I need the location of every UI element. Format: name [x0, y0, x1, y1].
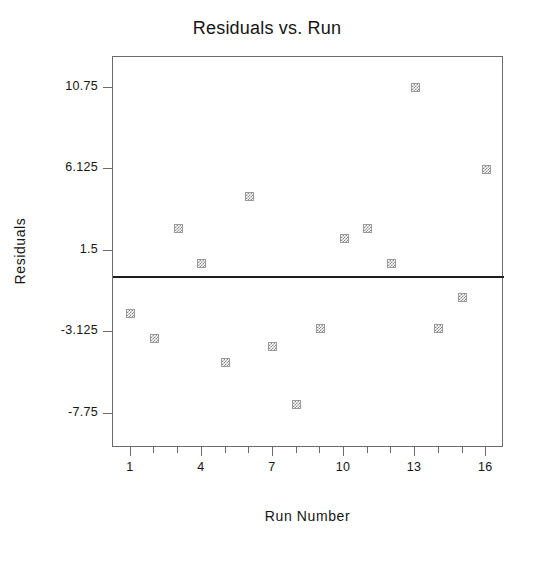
y-tick-label: -3.125: [61, 323, 98, 337]
zero-reference-line: [113, 276, 504, 278]
y-axis-title: Residuals: [12, 171, 28, 331]
x-tick-mark: [343, 447, 344, 456]
x-tick-label: 10: [323, 460, 363, 474]
data-point: [150, 334, 159, 343]
x-tick-mark: [201, 447, 202, 456]
data-point: [482, 165, 491, 174]
x-tick-mark-minor: [296, 447, 297, 453]
x-tick-label: 4: [181, 460, 221, 474]
x-tick-label: 7: [252, 460, 292, 474]
x-tick-label: 16: [465, 460, 505, 474]
x-tick-mark-minor: [438, 447, 439, 453]
y-tick-mark: [103, 87, 112, 88]
x-tick-mark-minor: [367, 447, 368, 453]
data-point: [411, 83, 420, 92]
data-point: [363, 224, 372, 233]
data-point: [387, 259, 396, 268]
x-tick-mark-minor: [462, 447, 463, 453]
x-tick-mark: [130, 447, 131, 456]
x-tick-label: 13: [394, 460, 434, 474]
x-tick-label: 1: [110, 460, 150, 474]
x-tick-mark: [485, 447, 486, 456]
x-tick-mark-minor: [225, 447, 226, 453]
x-tick-mark-minor: [177, 447, 178, 453]
residuals-vs-run-chart: Residuals vs. Run 10.756.1251.5-3.125-7.…: [0, 0, 534, 574]
y-tick-mark: [103, 413, 112, 414]
x-tick-mark-minor: [390, 447, 391, 453]
y-tick-mark: [103, 331, 112, 332]
x-axis-title: Run Number: [112, 508, 503, 524]
data-point: [221, 358, 230, 367]
x-tick-mark-minor: [319, 447, 320, 453]
data-point: [316, 324, 325, 333]
data-point: [458, 293, 467, 302]
y-tick-mark: [103, 250, 112, 251]
x-tick-mark: [272, 447, 273, 456]
y-tick-label: 6.125: [65, 160, 98, 174]
data-point: [245, 192, 254, 201]
data-point: [126, 309, 135, 318]
page-title: Residuals vs. Run: [0, 18, 534, 39]
data-point: [292, 400, 301, 409]
y-tick-mark: [103, 168, 112, 169]
y-tick-label: -7.75: [68, 405, 98, 419]
data-point: [434, 324, 443, 333]
x-tick-mark: [414, 447, 415, 456]
data-point: [174, 224, 183, 233]
plot-area: [112, 56, 503, 447]
y-tick-label: 1.5: [80, 242, 98, 256]
data-point: [268, 342, 277, 351]
y-tick-label: 10.75: [65, 79, 98, 93]
data-point: [197, 259, 206, 268]
data-point: [340, 234, 349, 243]
x-tick-mark-minor: [153, 447, 154, 453]
x-tick-mark-minor: [248, 447, 249, 453]
